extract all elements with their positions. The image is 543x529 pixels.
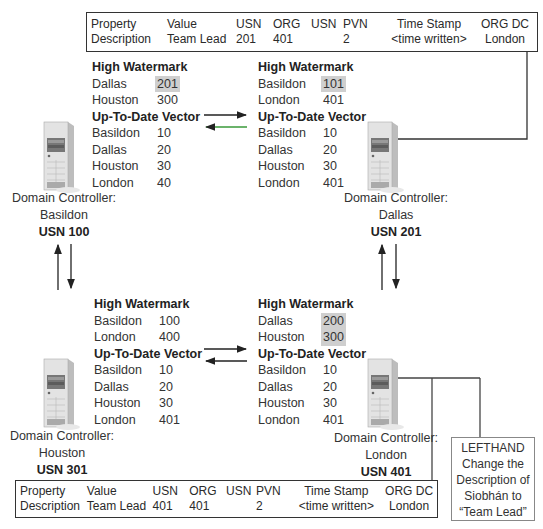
hwm-value: 400 — [157, 329, 182, 346]
utd-row: Houston30 — [258, 158, 366, 175]
utd-value: 20 — [155, 142, 173, 159]
value-pvn: 2 — [256, 499, 292, 514]
value-org-dc: London — [381, 499, 437, 514]
utd-row: Dallas20 — [92, 142, 200, 159]
dc-name: Houston — [0, 445, 124, 462]
top-attribute-record: Property Value USN ORG USN PVN Time Stam… — [86, 12, 538, 52]
utd-value: 40 — [155, 175, 173, 192]
hwm-dc: Houston — [92, 92, 155, 109]
dc-prefix: Domain Controller: — [0, 190, 128, 207]
utd-value: 10 — [157, 362, 175, 379]
connector-top-record-dallas — [395, 52, 527, 139]
hwm-row: Houston300 — [92, 92, 200, 109]
note-line: Siobhán to — [452, 488, 534, 504]
hwm-dc: Dallas — [92, 76, 155, 93]
hwm-value: 300 — [155, 92, 180, 109]
server-icon-basildon — [38, 118, 78, 190]
hwm-dc: Basildon — [258, 76, 321, 93]
value-org-dc: London — [475, 32, 535, 47]
bottom-attribute-record: Property Value USN ORG USN PVN Time Stam… — [15, 480, 438, 518]
utd-row: London401 — [94, 412, 202, 429]
hwm-row: Dallas201 — [92, 76, 200, 93]
utd-row: Houston30 — [258, 395, 366, 412]
lefthand-change-note: LEFTHAND Change the Description of Siobh… — [451, 437, 535, 521]
value-timestamp: <time written> — [383, 32, 475, 47]
utd-dc: Houston — [258, 158, 321, 175]
high-watermark-heading: High Watermark — [94, 296, 202, 313]
utd-row: London401 — [258, 412, 366, 429]
hwm-dc: London — [258, 92, 321, 109]
dc-name: Dallas — [322, 207, 470, 224]
utd-dc: London — [94, 412, 157, 429]
hwm-dc: London — [94, 329, 157, 346]
header-property: Property — [20, 484, 87, 499]
utd-dc: Basildon — [94, 362, 157, 379]
note-line: LEFTHAND — [452, 440, 534, 456]
utd-value: 401 — [157, 412, 182, 429]
houston-replication-table: High Watermark Basildon100 London400 Up-… — [94, 296, 202, 428]
dc-prefix: Domain Controller: — [322, 190, 470, 207]
record-value-row: Description Team Lead 401 401 2 <time wr… — [20, 499, 437, 514]
dc-name: Basildon — [0, 207, 128, 224]
utd-row: Houston30 — [94, 395, 202, 412]
header-usn2: USN — [226, 484, 256, 499]
utd-row: London40 — [92, 175, 200, 192]
hwm-row: Basildon100 — [94, 313, 202, 330]
utd-row: Basildon10 — [258, 362, 366, 379]
utd-dc: Dallas — [258, 142, 321, 159]
header-usn2: USN — [311, 17, 343, 32]
header-pvn: PVN — [256, 484, 292, 499]
high-watermark-heading: High Watermark — [92, 59, 200, 76]
utd-dc: London — [258, 175, 321, 192]
utd-dc: Dallas — [94, 379, 157, 396]
utd-vector-heading: Up-To-Date Vector — [92, 109, 200, 126]
basildon-replication-table: High Watermark Dallas201 Houston300 Up-T… — [92, 59, 200, 191]
utd-value: 30 — [157, 395, 175, 412]
header-org-dc: ORG DC — [381, 484, 437, 499]
value-org: 401 — [273, 32, 311, 47]
utd-dc: Houston — [258, 395, 321, 412]
dc-prefix: Domain Controller: — [312, 430, 460, 447]
note-line: Description of — [452, 472, 534, 488]
value-usn2 — [311, 32, 343, 47]
header-timestamp: Time Stamp — [292, 484, 382, 499]
utd-dc: London — [92, 175, 155, 192]
header-property: Property — [91, 17, 167, 32]
hwm-value: 201 — [155, 76, 180, 93]
value-org: 401 — [189, 499, 226, 514]
utd-vector-heading: Up-To-Date Vector — [258, 346, 366, 363]
value-usn2 — [226, 499, 256, 514]
utd-value: 20 — [321, 142, 339, 159]
dallas-replication-table: High Watermark Basildon101 London401 Up-… — [258, 59, 366, 191]
server-icon-dallas — [362, 118, 402, 190]
london-replication-table: High Watermark Dallas200 Houston300 Up-T… — [258, 296, 366, 428]
note-line: Change the — [452, 456, 534, 472]
header-usn: USN — [153, 484, 190, 499]
utd-value: 30 — [155, 158, 173, 175]
hwm-row: London400 — [94, 329, 202, 346]
header-value: Value — [87, 484, 153, 499]
header-org: ORG — [189, 484, 226, 499]
value-usn: 401 — [153, 499, 190, 514]
hwm-dc: Dallas — [258, 313, 321, 330]
dc-label-dallas: Domain Controller: Dallas USN 201 — [322, 190, 470, 241]
utd-row: Basildon10 — [94, 362, 202, 379]
high-watermark-heading: High Watermark — [258, 59, 366, 76]
dc-usn: USN 301 — [0, 462, 124, 479]
header-usn: USN — [236, 17, 273, 32]
utd-value: 401 — [321, 175, 346, 192]
utd-vector-heading: Up-To-Date Vector — [258, 109, 366, 126]
value-property: Description — [91, 32, 167, 47]
header-value: Value — [167, 17, 236, 32]
dc-label-houston: Domain Controller: Houston USN 301 — [0, 428, 124, 479]
hwm-value: 101 — [321, 76, 346, 93]
hwm-value: 401 — [321, 92, 346, 109]
utd-value: 20 — [321, 379, 339, 396]
server-icon-london — [362, 355, 402, 427]
utd-dc: Basildon — [92, 125, 155, 142]
utd-value: 10 — [155, 125, 173, 142]
utd-value: 30 — [321, 395, 339, 412]
hwm-value: 100 — [157, 313, 182, 330]
utd-vector-heading: Up-To-Date Vector — [94, 346, 202, 363]
hwm-row: London401 — [258, 92, 366, 109]
